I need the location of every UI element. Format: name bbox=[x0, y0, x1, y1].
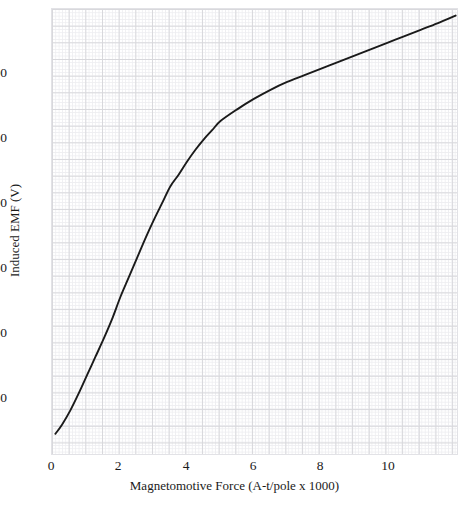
y-tick-label-250: 250 bbox=[0, 131, 7, 145]
y-tick-label-100: 100 bbox=[0, 326, 7, 340]
x-axis-label: Magnetomotive Force (A-t/pole x 1000) bbox=[0, 479, 469, 492]
magnetization-curve bbox=[55, 16, 455, 434]
x-tick-label-2: 2 bbox=[98, 459, 138, 473]
y-tick-label-50: 50 bbox=[0, 391, 7, 405]
y-tick-label-300: 300 bbox=[0, 66, 7, 80]
chart-container: 300 250 200 150 100 50 0 2 4 6 8 10 Magn… bbox=[0, 0, 469, 505]
y-axis-label: Induced EMF (V) bbox=[8, 131, 21, 331]
x-tick-label-6: 6 bbox=[233, 459, 273, 473]
x-tick-label-0: 0 bbox=[31, 459, 71, 473]
x-tick-label-4: 4 bbox=[166, 459, 206, 473]
x-tick-label-8: 8 bbox=[300, 459, 340, 473]
curve-svg bbox=[52, 9, 459, 456]
x-tick-label-10: 10 bbox=[368, 459, 408, 473]
plot-area bbox=[51, 8, 458, 455]
